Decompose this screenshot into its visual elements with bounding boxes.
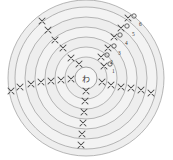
concentric-ring-diagram: わ 1 2 3 4 5 6 xyxy=(0,0,173,160)
center-glyph: わ xyxy=(82,75,90,84)
ring-label-3: 3 xyxy=(118,50,121,56)
ring-label-2: 2 xyxy=(110,59,113,65)
ring-label-5: 5 xyxy=(132,31,135,37)
diagram-canvas: わ 1 2 3 4 5 6 xyxy=(0,0,173,160)
ring-label-4: 4 xyxy=(125,40,128,46)
ring-label-1: 1 xyxy=(112,68,115,74)
ring-label-6: 6 xyxy=(139,21,142,27)
